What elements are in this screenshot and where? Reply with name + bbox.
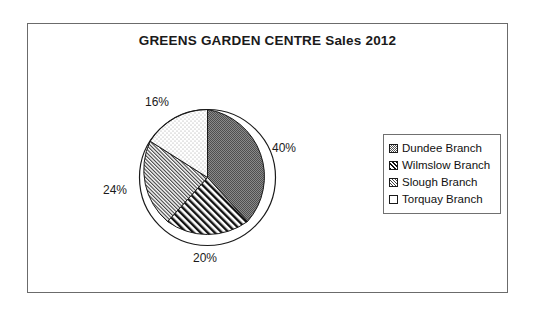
chart-legend: Dundee Branch Wilmslow Branch Slough Bra… [383,134,501,214]
data-label-wilmslow: 20% [193,251,217,265]
legend-swatch-icon-slough [389,178,398,187]
legend-label-dundee: Dundee Branch [402,142,482,155]
pie-svg [130,100,285,255]
data-label-slough: 24% [103,183,127,197]
legend-swatch-icon-torquay [389,195,398,204]
legend-item-dundee: Dundee Branch [389,140,494,157]
legend-swatch-icon-wilmslow [389,161,398,170]
chart-canvas: GREENS GARDEN CENTRE Sales 2012 [0,0,537,313]
legend-item-torquay: Torquay Branch [389,191,494,208]
legend-label-slough: Slough Branch [402,176,477,189]
legend-label-wilmslow: Wilmslow Branch [402,159,490,172]
data-label-dundee: 40% [272,141,296,155]
data-label-torquay: 16% [145,95,169,109]
legend-label-torquay: Torquay Branch [402,193,483,206]
pie-chart [130,100,285,255]
legend-item-wilmslow: Wilmslow Branch [389,157,494,174]
chart-title: GREENS GARDEN CENTRE Sales 2012 [27,33,508,48]
legend-swatch-icon-dundee [389,144,398,153]
legend-item-slough: Slough Branch [389,174,494,191]
